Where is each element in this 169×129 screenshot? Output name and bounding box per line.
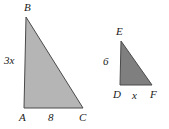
side-label-DF-x: x: [132, 90, 137, 101]
vertex-label-D: D: [113, 89, 121, 100]
side-label-DE-6: 6: [103, 56, 109, 67]
vertex-label-B: B: [24, 2, 31, 13]
triangle-ABC-shape: [24, 17, 83, 108]
vertex-label-A: A: [19, 112, 26, 123]
side-label-AC-8: 8: [48, 112, 54, 123]
triangles-diagram: [0, 0, 169, 129]
triangle-DEF-shape: [120, 41, 152, 85]
vertex-label-F: F: [150, 89, 157, 100]
vertex-label-E: E: [116, 26, 123, 37]
similar-triangles-figure: B A C 3x 8 E D F 6 x: [0, 0, 169, 129]
vertex-label-C: C: [79, 112, 86, 123]
side-label-AB-3x: 3x: [4, 55, 14, 66]
